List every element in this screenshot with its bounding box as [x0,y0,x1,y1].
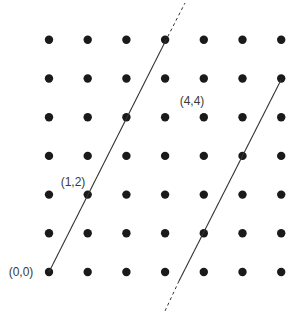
line-through-origin-solid [49,42,165,272]
lattice-dot [84,74,92,82]
lattice-dot [45,74,53,82]
lattice-dot [277,152,285,160]
lattice-dot [200,190,208,198]
lattice-dot [122,268,130,276]
lattice-dot [161,190,169,198]
lattice-dot [238,268,246,276]
lattice-dot [277,74,285,82]
lattice-dot [122,74,130,82]
lattice-dot [200,268,208,276]
parallel-line-solid [179,80,281,281]
parallel-line-dashed [165,281,179,311]
lattice-dot [277,268,285,276]
lattice-dot [277,190,285,198]
label-point-1-2: (1,2) [61,175,86,189]
lattice-dot [238,113,246,121]
lattice-dot [200,74,208,82]
lattice-dot [84,229,92,237]
lattice-dot [238,36,246,44]
line-through-origin-dashed [165,3,185,42]
lattice-dots [45,36,286,277]
lattice-dot [161,74,169,82]
lattice-dot [45,229,53,237]
lattice-dot [161,113,169,121]
lattice-dot [122,229,130,237]
lattice-dot [45,36,53,44]
lattice-dot [122,190,130,198]
lattice-dot [84,113,92,121]
lattice-dot [277,36,285,44]
lattice-dot [200,113,208,121]
lattice-dot [277,229,285,237]
lattice-dot [277,113,285,121]
lattice-dot [84,268,92,276]
lattice-dot [200,152,208,160]
lattice-dot [45,113,53,121]
lattice-dot [45,152,53,160]
lattice-dot [122,113,130,121]
lattice-dot [238,229,246,237]
lattice-dot [45,190,53,198]
lattice-dot [161,268,169,276]
lattice-dot [122,36,130,44]
lattice-dot [122,152,130,160]
lattice-dot [200,36,208,44]
lattice-dot [84,36,92,44]
lattice-dot [84,152,92,160]
lattice-dot [161,152,169,160]
label-origin: (0,0) [9,265,34,279]
lattice-dot [161,229,169,237]
lattice-dot [238,190,246,198]
label-point-4-4: (4,4) [180,94,205,108]
lattice-diagram: (0,0) (1,2) (4,4) [0,0,294,319]
lattice-dot [238,74,246,82]
